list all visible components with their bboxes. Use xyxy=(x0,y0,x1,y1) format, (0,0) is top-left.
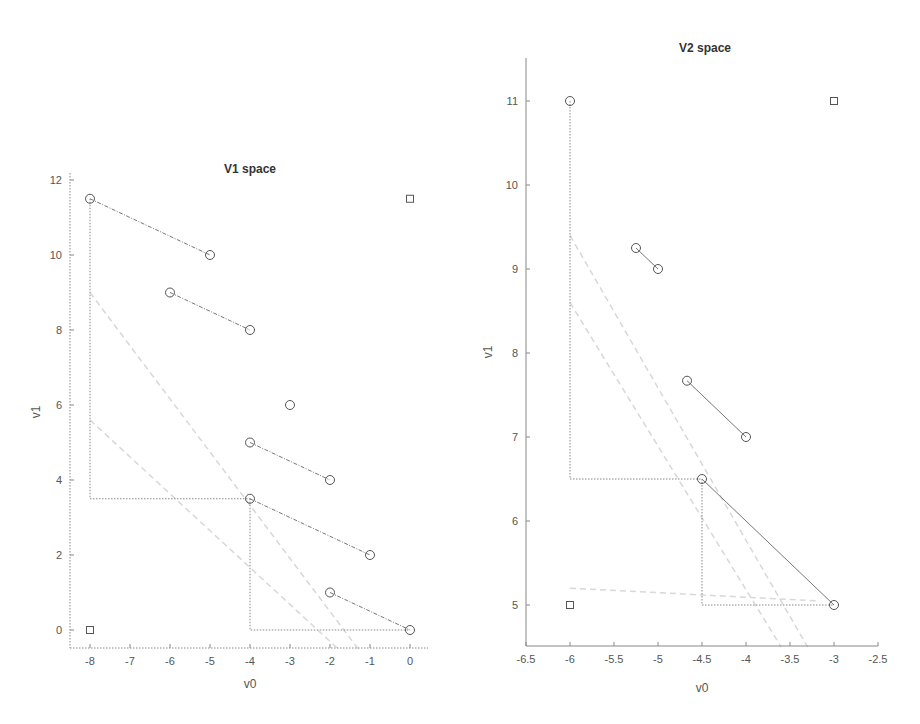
y-tick-label: 11 xyxy=(507,95,518,107)
y-tick-label: 12 xyxy=(50,174,62,186)
y-tick-label: 10 xyxy=(506,179,518,191)
bound-box xyxy=(250,499,410,630)
y-tick-label: 10 xyxy=(50,249,62,261)
bound-box xyxy=(570,101,702,479)
x-tick-label: -7 xyxy=(125,655,135,667)
x-tick-label: -6.5 xyxy=(517,653,536,665)
v1-space-chart: V1 space v0 v1 -8-7-6-5-4-3-2-1002468101… xyxy=(29,162,428,691)
segment-line xyxy=(90,199,210,255)
faint-line xyxy=(90,293,358,649)
chart-title: V1 space xyxy=(224,162,276,176)
x-tick-label: -3.5 xyxy=(781,653,800,665)
y-tick-label: 8 xyxy=(512,347,518,359)
plot-area: -6.5-6-5.5-5-4.5-4-3.5-3-2.5567891011 xyxy=(506,58,888,665)
x-tick-label: -1 xyxy=(365,655,375,667)
y-tick-label: 7 xyxy=(512,431,518,443)
y-tick-label: 5 xyxy=(512,599,518,611)
x-tick-label: -5.5 xyxy=(605,653,624,665)
square-marker xyxy=(567,602,574,609)
x-tick-label: -3 xyxy=(829,653,839,665)
x-tick-label: -4 xyxy=(741,653,751,665)
plot-area: -8-7-6-5-4-3-2-10024681012 xyxy=(50,173,428,667)
chart-title: V2 space xyxy=(679,41,731,55)
faint-line xyxy=(570,235,808,647)
y-tick-label: 4 xyxy=(56,474,62,486)
faint-line xyxy=(570,303,781,647)
figure-canvas: V1 space v0 v1 -8-7-6-5-4-3-2-1002468101… xyxy=(0,0,920,724)
y-tick-label: 6 xyxy=(56,399,62,411)
segment-line xyxy=(250,443,330,481)
x-tick-label: -2 xyxy=(325,655,335,667)
x-tick-label: -8 xyxy=(85,655,95,667)
segment-line xyxy=(330,593,410,631)
y-axis-label: v1 xyxy=(481,345,495,358)
x-tick-label: -6 xyxy=(565,653,575,665)
y-tick-label: 0 xyxy=(56,624,62,636)
x-axis-label: v0 xyxy=(244,677,257,691)
x-tick-label: 0 xyxy=(407,655,413,667)
square-marker xyxy=(831,98,838,105)
segment-line xyxy=(170,293,250,331)
faint-line xyxy=(90,420,338,649)
x-tick-label: -5 xyxy=(653,653,663,665)
segment-line xyxy=(687,381,746,437)
x-tick-label: -4.5 xyxy=(693,653,712,665)
segment-line xyxy=(702,479,834,605)
faint-line xyxy=(570,588,816,601)
square-marker xyxy=(407,195,414,202)
y-tick-label: 2 xyxy=(56,549,62,561)
segment-line xyxy=(250,499,370,555)
bound-box xyxy=(90,199,250,499)
y-tick-label: 6 xyxy=(512,515,518,527)
square-marker xyxy=(87,627,94,634)
x-tick-label: -2.5 xyxy=(869,653,888,665)
x-tick-label: -3 xyxy=(285,655,295,667)
y-tick-label: 8 xyxy=(56,324,62,336)
x-tick-label: -4 xyxy=(245,655,255,667)
circle-marker xyxy=(286,401,295,410)
x-tick-label: -6 xyxy=(165,655,175,667)
y-axis-label: v1 xyxy=(29,405,43,418)
v2-space-chart: V2 space v0 v1 -6.5-6-5.5-5-4.5-4-3.5-3-… xyxy=(481,41,887,695)
x-axis-label: v0 xyxy=(696,681,709,695)
x-tick-label: -5 xyxy=(205,655,215,667)
y-tick-label: 9 xyxy=(512,263,518,275)
